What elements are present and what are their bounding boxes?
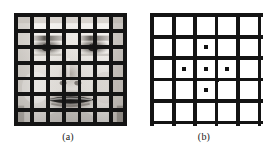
- occluded-face-svg: [14, 13, 127, 126]
- figure-root: (a): [0, 0, 272, 159]
- panel-a-caption: (a): [0, 131, 136, 143]
- feature-point: [225, 67, 229, 71]
- feature-point: [204, 45, 208, 49]
- panel-b: (b): [136, 0, 272, 159]
- sparse-feature-map-svg: [150, 13, 263, 126]
- panel-b-plot: [150, 13, 263, 126]
- panel-a-plot: [14, 13, 127, 126]
- feature-point: [215, 78, 219, 82]
- panel-a: (a): [0, 0, 136, 159]
- feature-point: [182, 67, 186, 71]
- feature-point: [204, 67, 208, 71]
- panel-b-caption: (b): [136, 131, 272, 143]
- feature-point: [193, 56, 197, 60]
- feature-point: [215, 56, 219, 60]
- feature-point: [204, 88, 208, 92]
- feature-point: [193, 78, 197, 82]
